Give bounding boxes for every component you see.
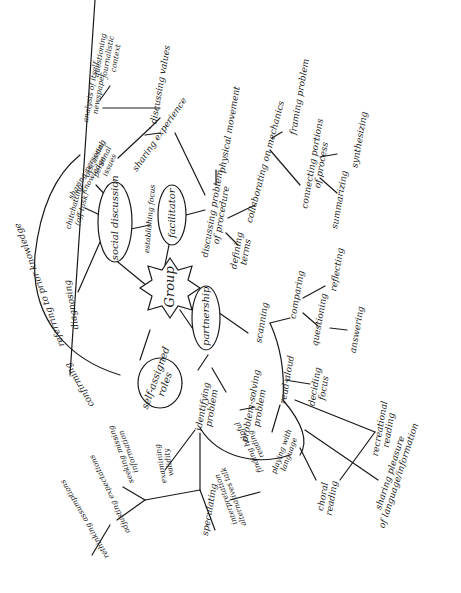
edges [35, 0, 378, 555]
group-label: Group [163, 265, 177, 309]
partnership-label: partnership [201, 282, 212, 350]
facilitator-label: facilitator [167, 183, 178, 243]
social-discussion-label: social discussion [110, 180, 121, 260]
